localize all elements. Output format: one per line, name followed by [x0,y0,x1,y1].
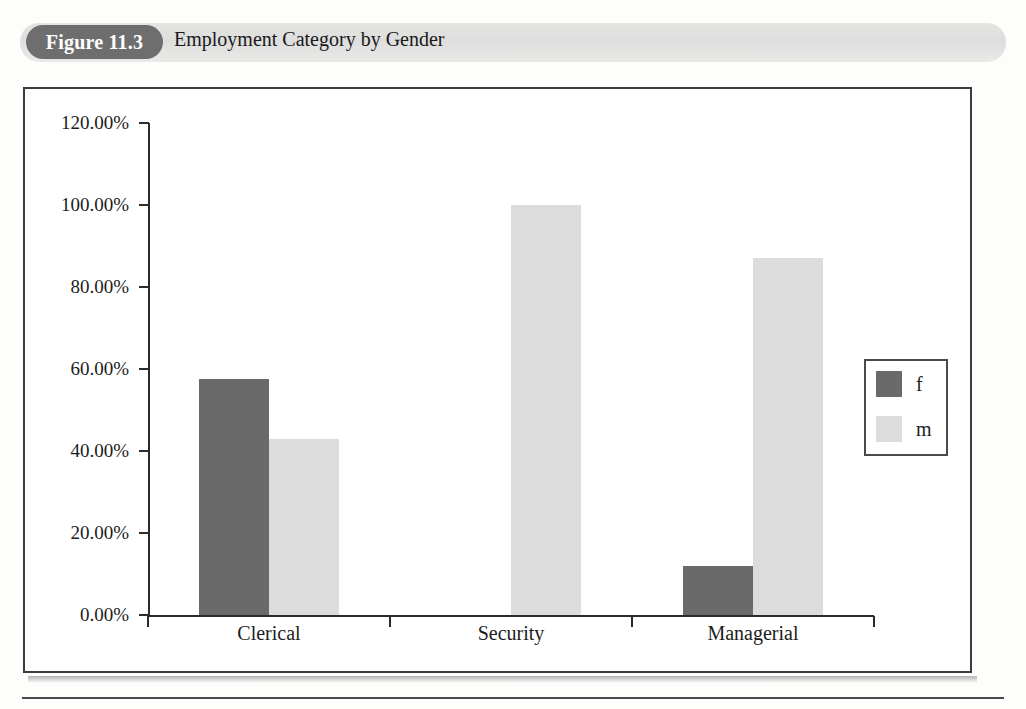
x-axis-line [148,615,874,617]
y-axis-tick [139,286,149,288]
y-axis-tick [139,204,149,206]
y-axis-tick [139,122,149,124]
figure-title: Employment Category by Gender [174,28,445,51]
bar-m-clerical [269,439,339,615]
page-bottom-rule [22,697,1004,699]
y-axis-tick-label: 20.00% [25,522,129,544]
y-axis-tick-label: 40.00% [25,440,129,462]
chart-frame-shadow [28,676,977,683]
bar-m-managerial [753,258,823,615]
legend-item-m: m [876,416,932,442]
y-axis-tick-label: 100.00% [25,194,129,216]
bar-f-clerical [199,379,269,615]
chart-frame [23,87,972,673]
y-axis-tick-label: 80.00% [25,276,129,298]
x-axis-category-label: Clerical [148,622,390,645]
y-axis-tick-label: 0.00% [25,604,129,626]
figure-header-banner [20,23,1006,62]
legend-label-f: f [916,373,923,396]
y-axis-line [148,123,150,617]
legend-label-m: m [916,418,932,441]
x-axis-category-label: Security [390,622,632,645]
y-axis-tick [139,532,149,534]
legend-swatch-f-icon [876,371,902,397]
y-axis-tick [139,450,149,452]
legend-item-f: f [876,371,923,397]
y-axis-tick-label: 60.00% [25,358,129,380]
figure-number-badge: Figure 11.3 [26,25,163,59]
y-axis-tick-label: 120.00% [25,112,129,134]
bar-m-security [511,205,581,615]
legend-swatch-m-icon [876,416,902,442]
x-axis-category-label: Managerial [632,622,874,645]
y-axis-tick [139,368,149,370]
chart-legend: f m [864,359,948,456]
bar-f-managerial [683,566,753,615]
